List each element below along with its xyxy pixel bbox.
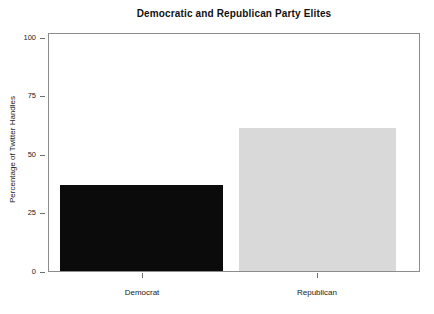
bars-layer — [49, 34, 419, 271]
chart-figure: Democratic and Republican Party Elites P… — [0, 0, 434, 314]
x-tick-label-democrat: Democrat — [72, 288, 212, 298]
y-tick-label-75: 75 — [0, 92, 36, 100]
y-tick-mark-75 — [40, 96, 45, 97]
y-tick-label-0: 0 — [0, 268, 36, 276]
chart-title: Democratic and Republican Party Elites — [48, 8, 420, 20]
plot-area — [48, 33, 420, 272]
bar-republican — [239, 128, 396, 271]
x-tick-label-republican: Republican — [247, 288, 387, 298]
y-tick-mark-0 — [40, 272, 45, 273]
y-tick-label-100: 100 — [0, 34, 36, 42]
y-tick-mark-100 — [40, 38, 45, 39]
bar-democrat — [60, 185, 223, 271]
y-tick-label-50: 50 — [0, 151, 36, 159]
y-tick-label-25: 25 — [0, 209, 36, 217]
x-tick-mark-democrat — [142, 273, 143, 278]
y-tick-mark-50 — [40, 155, 45, 156]
x-tick-mark-republican — [317, 273, 318, 278]
y-tick-mark-25 — [40, 213, 45, 214]
